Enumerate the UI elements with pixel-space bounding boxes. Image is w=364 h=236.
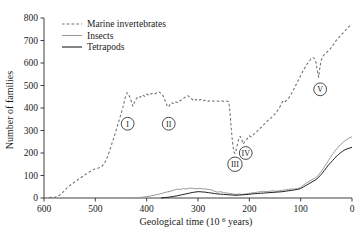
y-tick-label: 200	[24, 148, 39, 158]
marker-label: III	[231, 160, 239, 169]
x-tick-label: 600	[37, 204, 52, 214]
x-axis-ticks: 6005004003002001000	[37, 198, 355, 214]
legend-label: Marine invertebrates	[87, 19, 166, 29]
x-axis-title-text: Geological time (10	[140, 216, 220, 228]
y-tick-label: 300	[24, 126, 39, 136]
marker-label: V	[317, 85, 323, 94]
legend-label: Insects	[87, 31, 114, 41]
y-axis-ticks: 0100200300400500600700800	[24, 13, 44, 203]
y-tick-label: 800	[24, 13, 39, 23]
legend-item-marine-invertebrates[interactable]: Marine invertebrates	[62, 19, 166, 29]
y-tick-label: 600	[24, 58, 39, 68]
x-tick-label: 0	[350, 204, 355, 214]
marker-label: I	[126, 120, 129, 129]
x-tick-label: 100	[294, 204, 309, 214]
marker-label: II	[166, 120, 172, 129]
chart-canvas: 0100200300400500600700800 60050040030020…	[0, 0, 364, 236]
y-tick-label: 500	[24, 81, 39, 91]
x-axis-title-suffix: years)	[226, 216, 253, 228]
y-tick-label: 400	[24, 103, 39, 113]
extinction-event-markers: IIIIIIIVV	[121, 83, 326, 172]
extinction-marker-i: I	[121, 117, 134, 130]
diversity-chart: 0100200300400500600700800 60050040030020…	[0, 0, 364, 236]
extinction-marker-iv: IV	[239, 147, 252, 160]
x-tick-label: 300	[191, 204, 206, 214]
y-axis-title: Number of families	[4, 71, 15, 149]
chart-legend: Marine invertebratesInsectsTetrapods	[62, 19, 166, 52]
x-axis-title: Geological time (10 6 years)	[140, 216, 253, 228]
series-line-tetrapods	[161, 147, 352, 198]
marker-label: IV	[242, 149, 251, 158]
legend-item-insects[interactable]: Insects	[62, 31, 114, 41]
y-tick-label: 700	[24, 36, 39, 46]
extinction-marker-v: V	[314, 83, 327, 96]
x-tick-label: 400	[140, 204, 155, 214]
legend-item-tetrapods[interactable]: Tetrapods	[62, 42, 125, 52]
extinction-marker-iii: III	[228, 157, 242, 171]
extinction-marker-ii: II	[162, 117, 175, 130]
x-tick-label: 200	[242, 204, 257, 214]
x-tick-label: 500	[88, 204, 103, 214]
y-tick-label: 0	[33, 193, 38, 203]
y-tick-label: 100	[24, 171, 39, 181]
svg-text:Geological time (10 6 ye: Geological time (10 6 years)	[140, 216, 253, 228]
legend-label: Tetrapods	[87, 42, 125, 52]
